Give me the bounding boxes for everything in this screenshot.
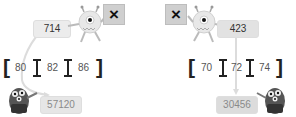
separator-icon [219, 58, 228, 78]
close-bracket: ] [276, 57, 283, 77]
options-bracket-row: [ 70 72 74 ] [188, 58, 288, 78]
option-value[interactable]: 82 [47, 58, 58, 78]
result-box: 57120 [40, 96, 82, 114]
option-value[interactable]: 86 [78, 58, 89, 78]
multiply-sign-icon: × [103, 4, 125, 25]
close-bracket: ] [96, 57, 103, 77]
multiply-sign-icon: × [165, 4, 187, 25]
option-value[interactable]: 74 [259, 58, 270, 78]
result-box: 30456 [216, 96, 258, 114]
options-bracket-row: [ 80 82 86 ] [3, 58, 103, 78]
left-problem-panel: 714 × [ 80 82 86 ] 57120 [0, 0, 148, 117]
option-value[interactable]: 70 [201, 58, 212, 78]
three-eyed-monster-icon [5, 84, 35, 117]
open-bracket: [ [3, 57, 10, 77]
separator-icon [246, 58, 255, 78]
three-eyed-monster-icon [261, 84, 291, 117]
open-bracket: [ [188, 57, 195, 77]
option-value[interactable]: 72 [231, 58, 242, 78]
multiplicand-box: 714 [33, 20, 71, 38]
right-problem-panel: × 423 [ 70 72 74 ] 30456 [148, 0, 296, 117]
option-value[interactable]: 80 [15, 58, 26, 78]
separator-icon [33, 58, 42, 78]
multiplicand-box: 423 [217, 20, 259, 38]
separator-icon [64, 58, 73, 78]
